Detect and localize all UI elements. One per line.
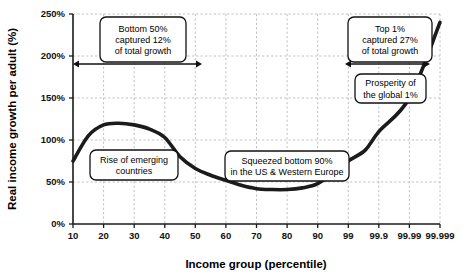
annotation-line: Top 1% (375, 24, 405, 34)
x-tick-label: 80 (282, 230, 293, 241)
annotation-line: of total growth (115, 46, 172, 56)
x-tick-label: 60 (221, 230, 232, 241)
x-tick-label: 99.9 (370, 230, 389, 241)
x-tick-label: 99.999 (425, 230, 454, 241)
prosperity-of-global-1-callout: Prosperity ofthe global 1% (355, 74, 426, 103)
x-tick-label: 90 (312, 230, 323, 241)
annotation-line: captured 27% (362, 35, 418, 45)
y-axis-title: Real income growth per adult (%) (6, 28, 18, 210)
y-tick-label: 150% (41, 92, 66, 103)
annotation-line: Bottom 50% (118, 24, 167, 34)
x-axis-title: Income group (percentile) (185, 258, 326, 270)
x-tick-label: 10 (68, 230, 79, 241)
y-tick-label: 100% (41, 134, 66, 145)
top-1-callout: Top 1%captured 27%of total growth (348, 17, 432, 62)
elephant-curve-chart: 0%50%100%150%200%250% 102030405060708090… (0, 0, 467, 274)
annotation-line: Squeezed bottom 90% (241, 156, 332, 166)
y-tick-label: 200% (41, 50, 66, 61)
annotation-line: countries (116, 166, 153, 176)
x-tick-label: 50 (190, 230, 201, 241)
annotation-line: captured 12% (115, 35, 171, 45)
y-tick-label: 0% (51, 218, 65, 229)
annotation-line: the global 1% (363, 90, 418, 100)
x-tick-label: 70 (251, 230, 262, 241)
x-tick-label: 30 (129, 230, 140, 241)
x-tick-label: 40 (160, 230, 171, 241)
annotation-line: Rise of emerging (100, 155, 168, 165)
rise-of-emerging-countries-callout: Rise of emergingcountries (90, 150, 178, 180)
annotation-line: in the US & Western Europe (231, 167, 344, 177)
squeezed-bottom-90-callout: Squeezed bottom 90%in the US & Western E… (225, 151, 349, 181)
x-tick-label: 20 (98, 230, 109, 241)
annotation-line: of total growth (362, 46, 419, 56)
x-tick-label: 99.99 (398, 230, 422, 241)
y-tick-label: 50% (46, 176, 66, 187)
x-tick-label: 99 (343, 230, 354, 241)
annotation-line: Prosperity of (365, 78, 416, 88)
y-tick-label: 250% (41, 8, 66, 19)
bottom-50-callout: Bottom 50%captured 12%of total growth (100, 17, 186, 62)
chart-canvas: 0%50%100%150%200%250% 102030405060708090… (0, 0, 467, 274)
